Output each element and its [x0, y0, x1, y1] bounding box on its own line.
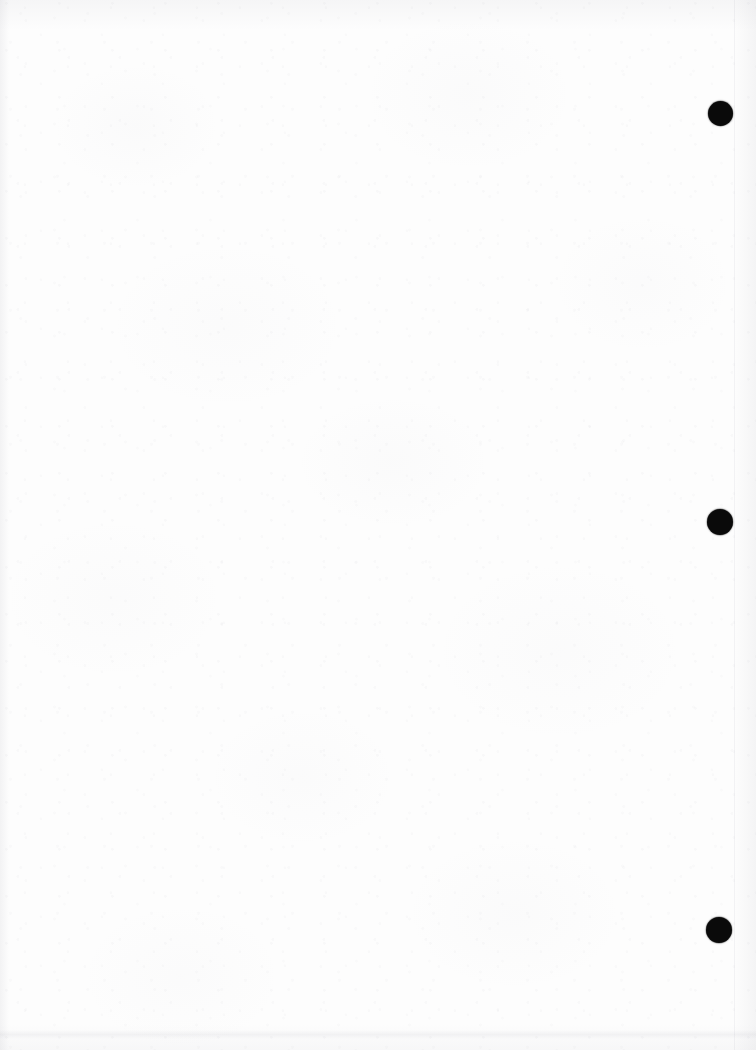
page-right-edge-shadow [734, 0, 756, 1050]
paper-grain-fine-texture [0, 0, 756, 1050]
page-bottom-edge-shadow [0, 1024, 756, 1050]
paper-grain-mottle-texture [0, 0, 756, 1050]
scanned-page [0, 0, 756, 1050]
page-right-edge-line [734, 0, 735, 1050]
page-bottom-smudge-band [0, 1030, 756, 1039]
page-top-edge-shadow [0, 0, 756, 30]
page-left-edge-shadow [0, 0, 9, 1050]
margin-dot-1 [708, 101, 733, 126]
margin-dot-2 [707, 509, 733, 535]
margin-dot-3 [706, 917, 732, 943]
